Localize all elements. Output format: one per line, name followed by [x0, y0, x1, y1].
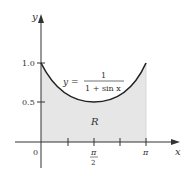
y-axis-arrow-icon	[38, 14, 44, 23]
figure-canvas: y x 0 1.0 0.5 π 2 π y = 1 1 + sin x R	[0, 0, 193, 176]
x-axis-label: x	[175, 146, 181, 157]
x-tick-label-pi-half-den: 2	[91, 159, 95, 167]
region-label: R	[90, 116, 99, 127]
equation-numerator: 1	[101, 71, 106, 80]
equation-denominator: 1 + sin x	[85, 84, 121, 93]
origin-label: 0	[33, 148, 38, 157]
y-tick-label-one: 1.0	[22, 59, 35, 68]
x-tick-label-pi: π	[142, 148, 149, 157]
x-tick-label-pi-half-num: π	[90, 148, 97, 157]
y-tick-label-half: 0.5	[22, 98, 35, 107]
y-axis-label: y	[31, 11, 38, 22]
equation-lhs: y =	[62, 77, 79, 87]
x-axis-arrow-icon	[171, 139, 180, 145]
